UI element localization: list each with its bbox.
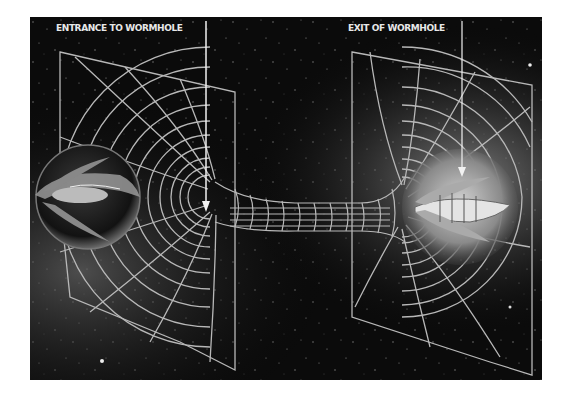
exit-label: EXIT OF WORMHOLE xyxy=(348,23,445,33)
wormhole-illustration: ENTRANCE TO WORMHOLE EXIT OF WORMHOLE xyxy=(30,17,542,380)
spaceship-exit xyxy=(402,149,518,265)
spaceship-entrance xyxy=(35,145,140,249)
entrance-label: ENTRANCE TO WORMHOLE xyxy=(56,23,183,33)
wormhole-diagram xyxy=(30,17,542,380)
bright-star xyxy=(100,359,104,363)
